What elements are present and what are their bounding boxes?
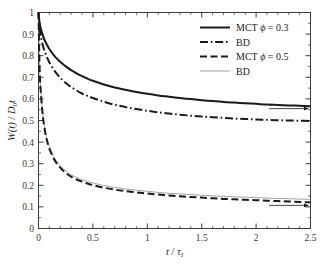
x-axis-title: t / τI (166, 246, 184, 259)
x-tick-label: 0 (36, 233, 41, 243)
y-axis-title: W(t) / D0t (6, 99, 19, 141)
x-tick-label: 1.5 (196, 233, 208, 243)
y-tick-label: 0.1 (22, 202, 34, 212)
line-chart: 00.511.522.500.10.20.30.40.50.60.70.80.9… (0, 0, 327, 265)
y-tick-label: 0.2 (22, 181, 34, 191)
legend-label-1: BD (236, 37, 250, 48)
x-tick-label: 2.5 (305, 233, 317, 243)
y-tick-label: 0.3 (22, 159, 34, 169)
legend-label-0: MCT ϕ = 0.3 (236, 22, 289, 33)
y-tick-label: 0.6 (22, 94, 34, 104)
svg-text:t / τI: t / τI (166, 246, 184, 259)
y-tick-label: 0.9 (22, 30, 34, 40)
y-tick-label: 1 (29, 8, 34, 18)
series-line-2 (39, 13, 311, 203)
figure-container: 00.511.522.500.10.20.30.40.50.60.70.80.9… (0, 0, 327, 265)
y-tick-label: 0 (29, 224, 34, 234)
y-tick-label: 0.8 (22, 51, 34, 61)
legend-label-2: MCT ϕ = 0.5 (236, 51, 289, 62)
svg-text:W(t) / D0t: W(t) / D0t (6, 99, 19, 141)
y-tick-label: 0.4 (22, 138, 34, 148)
legend-label-3: BD (236, 66, 250, 77)
x-tick-label: 1 (145, 233, 150, 243)
series-line-3 (39, 13, 311, 200)
x-tick-label: 0.5 (87, 233, 99, 243)
y-tick-label: 0.7 (22, 73, 34, 83)
y-tick-label: 0.5 (22, 116, 34, 126)
x-tick-label: 2 (254, 233, 259, 243)
